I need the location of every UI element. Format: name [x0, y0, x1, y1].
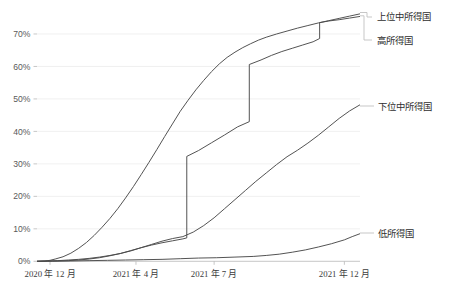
- series-label-upper-middle-income: 上位中所得国: [377, 11, 431, 22]
- x-tick-label: 2020 年 12 月: [25, 268, 76, 279]
- x-tick-label: 2021 年 7 月: [191, 268, 238, 279]
- series-label-high-income: 高所得国: [377, 35, 413, 46]
- series-label-low-income: 低所得国: [378, 228, 414, 239]
- series-label-lower-middle-income: 下位中所得国: [378, 101, 432, 112]
- y-tick-label: 20%: [13, 191, 31, 201]
- x-tick-label: 2021 年 12 月: [319, 268, 370, 279]
- chart-container: 0%10%20%30%40%50%60%70% 2020 年 12 月2021 …: [0, 0, 449, 289]
- line-chart: 0%10%20%30%40%50%60%70% 2020 年 12 月2021 …: [0, 0, 449, 289]
- y-tick-label: 50%: [13, 94, 31, 104]
- y-tick-label: 40%: [13, 127, 31, 137]
- y-tick-label: 70%: [13, 29, 31, 39]
- y-tick-label: 60%: [13, 62, 31, 72]
- y-tick-label: 10%: [13, 224, 31, 234]
- x-tick-label: 2021 年 4 月: [113, 268, 160, 279]
- y-tick-label: 0%: [18, 256, 31, 266]
- y-tick-label: 30%: [13, 159, 31, 169]
